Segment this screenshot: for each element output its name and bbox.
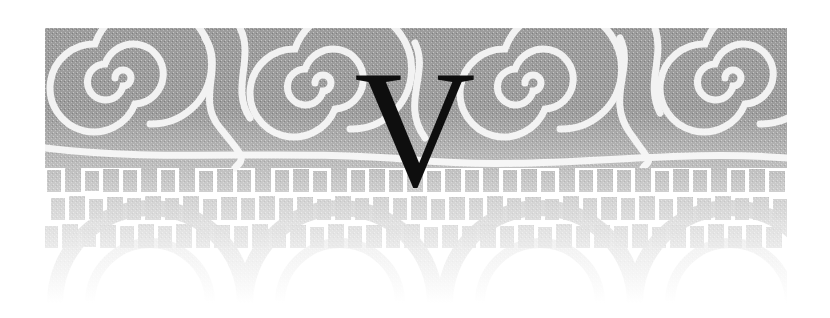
- chapter-numeral: V: [0, 44, 830, 212]
